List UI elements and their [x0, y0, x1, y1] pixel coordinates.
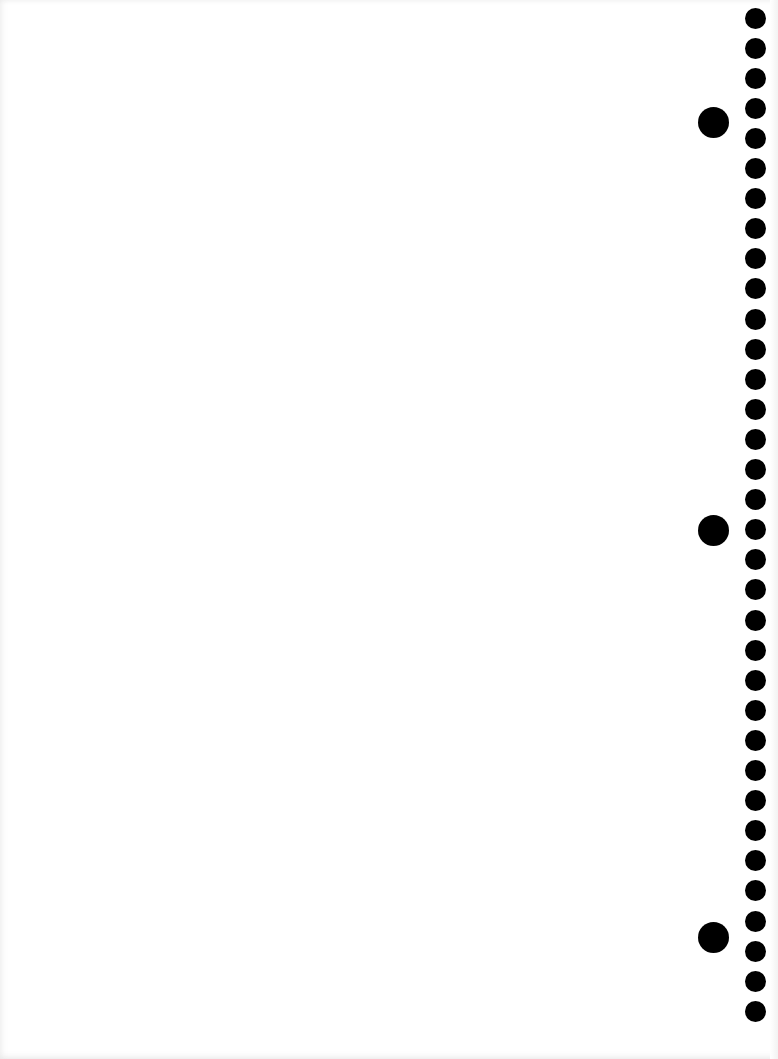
- small-punch-hole: [745, 218, 766, 239]
- small-punch-hole: [745, 369, 766, 390]
- small-punch-hole: [745, 188, 766, 209]
- small-punch-hole: [745, 158, 766, 179]
- small-punch-hole: [745, 730, 766, 751]
- small-punch-hole: [745, 8, 766, 29]
- small-punch-hole: [745, 128, 766, 149]
- blank-notebook-page: [0, 0, 778, 1059]
- small-punch-hole: [745, 820, 766, 841]
- small-punch-hole: [745, 248, 766, 269]
- small-punch-hole: [745, 880, 766, 901]
- small-punch-hole: [745, 610, 766, 631]
- small-punch-hole: [745, 309, 766, 330]
- large-punch-hole: [698, 107, 729, 138]
- small-punch-hole: [745, 640, 766, 661]
- small-punch-hole: [745, 459, 766, 480]
- page-edge: [770, 0, 778, 1059]
- small-punch-hole: [745, 278, 766, 299]
- small-punch-hole: [745, 700, 766, 721]
- small-punch-hole: [745, 971, 766, 992]
- small-punch-hole: [745, 670, 766, 691]
- large-punch-hole: [698, 515, 729, 546]
- small-punch-hole: [745, 549, 766, 570]
- small-punch-hole: [745, 489, 766, 510]
- large-punch-hole: [698, 922, 729, 953]
- small-punch-hole: [745, 941, 766, 962]
- small-punch-hole: [745, 790, 766, 811]
- small-punch-hole: [745, 399, 766, 420]
- small-punch-hole: [745, 38, 766, 59]
- small-punch-hole: [745, 850, 766, 871]
- small-punch-hole: [745, 98, 766, 119]
- small-punch-hole: [745, 1001, 766, 1022]
- small-punch-hole: [745, 760, 766, 781]
- small-punch-hole: [745, 911, 766, 932]
- small-punch-hole: [745, 68, 766, 89]
- small-punch-hole: [745, 339, 766, 360]
- small-punch-hole: [745, 429, 766, 450]
- small-punch-hole: [745, 519, 766, 540]
- small-punch-hole: [745, 579, 766, 600]
